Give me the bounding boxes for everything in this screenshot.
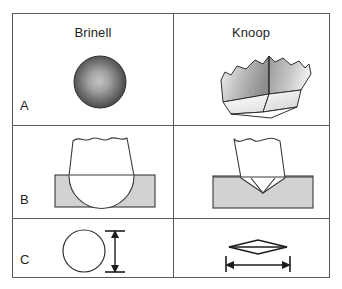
row-label-a: A (20, 98, 29, 113)
cell-c-brinell-impression (53, 226, 163, 278)
hardness-test-figure: Brinell Knoop A B C (0, 0, 342, 289)
brinell-indenter-body (69, 138, 134, 209)
row-label-b: B (20, 192, 29, 207)
cell-b-knoop-indentation (195, 129, 335, 217)
cell-c-knoop-impression (213, 226, 323, 278)
brinell-impression-circle (63, 230, 105, 272)
knoop-face-upper-right (269, 56, 311, 94)
brinell-sphere-indenter (74, 56, 126, 108)
cell-b-brinell-indentation (35, 129, 175, 217)
row-divider-a-b (13, 125, 329, 126)
column-heading-knoop: Knoop (191, 25, 311, 40)
row-divider-b-c (13, 218, 329, 219)
cell-a-knoop-pyramid (201, 44, 331, 124)
cell-a-brinell-sphere (43, 44, 163, 124)
figure-grid: Brinell Knoop A B C (12, 13, 330, 278)
column-heading-brinell: Brinell (33, 25, 153, 40)
row-label-c: C (20, 252, 29, 267)
